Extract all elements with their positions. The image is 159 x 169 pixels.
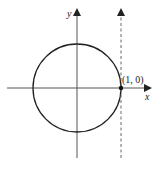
x-axis-label: x [144,91,150,102]
point-marker [119,86,123,90]
unit-circle-diagram: (1, 0) x y [0,0,159,169]
y-axis-label: y [66,8,72,19]
point-label: (1, 0) [122,74,144,86]
